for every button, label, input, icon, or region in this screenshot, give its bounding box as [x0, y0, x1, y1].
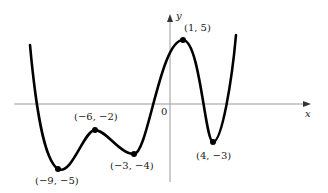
- point-marker: [92, 127, 98, 133]
- point-label: (−3, −4): [110, 160, 154, 171]
- origin-label: 0: [161, 106, 167, 117]
- function-graph: y x 0 (−9, −5) (−6, −2) (−3, −4) (1, 5) …: [0, 0, 328, 193]
- point-marker: [210, 139, 216, 145]
- y-axis-label: y: [176, 10, 182, 21]
- point-marker: [55, 166, 61, 172]
- point-marker: [131, 151, 137, 157]
- point-label: (1, 5): [184, 22, 211, 33]
- point-label: (4, −3): [196, 150, 231, 161]
- graph-canvas: [0, 0, 328, 193]
- point-label: (−6, −2): [74, 111, 118, 122]
- point-label: (−9, −5): [35, 175, 79, 186]
- x-axis-arrow-icon: [303, 101, 311, 107]
- y-axis-arrow-icon: [167, 14, 173, 22]
- x-axis-label: x: [305, 108, 311, 119]
- point-marker: [180, 37, 186, 43]
